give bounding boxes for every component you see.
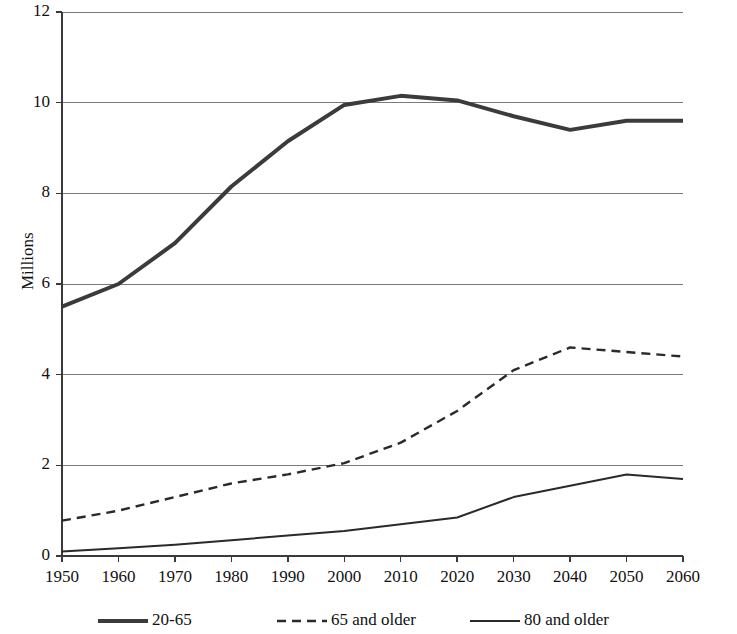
x-tick-label: 2000	[316, 567, 372, 587]
y-tick-label: 10	[8, 92, 50, 112]
x-tick-label: 2040	[542, 567, 598, 587]
y-tick-label: 4	[8, 364, 50, 384]
x-tick-label: 1990	[260, 567, 316, 587]
gridlines	[62, 12, 683, 556]
x-tick-label: 2060	[655, 567, 711, 587]
x-tick-label: 1950	[34, 567, 90, 587]
series-line-2	[62, 474, 683, 551]
series-line-1	[62, 347, 683, 520]
legend-label-0: 20-65	[152, 610, 192, 630]
y-tick-label: 2	[8, 454, 50, 474]
axis-ticks	[56, 12, 683, 562]
y-tick-label: 12	[8, 1, 50, 21]
x-tick-label: 1960	[90, 567, 146, 587]
y-tick-label: 0	[8, 545, 50, 565]
chart-canvas	[0, 0, 737, 634]
line-chart: 024681012 195019601970198019902000201020…	[0, 0, 737, 634]
x-tick-label: 2020	[429, 567, 485, 587]
legend-label-1: 65 and older	[331, 610, 416, 630]
x-tick-label: 1970	[147, 567, 203, 587]
legend-label-2: 80 and older	[524, 610, 609, 630]
x-tick-label: 2050	[599, 567, 655, 587]
x-tick-label: 2030	[486, 567, 542, 587]
y-axis-title: Millions	[18, 232, 38, 290]
x-tick-label: 2010	[373, 567, 429, 587]
x-tick-label: 1980	[203, 567, 259, 587]
y-tick-label: 8	[8, 182, 50, 202]
data-series	[62, 96, 683, 552]
series-line-0	[62, 96, 683, 307]
